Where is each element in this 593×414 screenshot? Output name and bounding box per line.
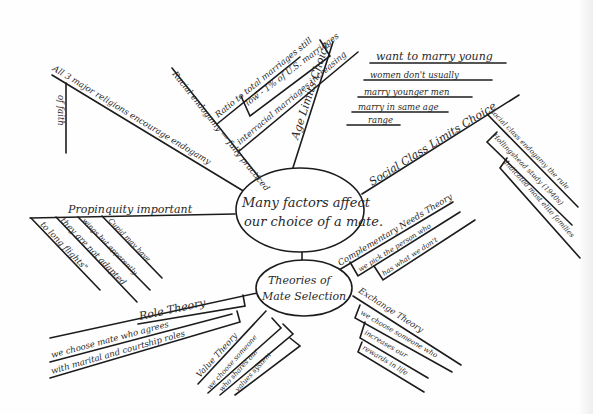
theories-bubble	[256, 260, 352, 316]
theories-line1: Theories of	[268, 274, 333, 287]
social-class-line-1: social class endogamy the rule	[489, 108, 571, 191]
age-line-1: want to marry young	[376, 50, 493, 63]
age-line-2: women don't usually	[370, 70, 459, 80]
mind-map-canvas: Many factors affect our choice of a mate…	[0, 0, 593, 414]
religion-sub-label: of faith	[56, 95, 66, 126]
propinquity-branch-label: Propinquity important	[67, 203, 193, 216]
theories-line2: Mate Selection	[261, 290, 346, 303]
mind-map-diagram: Many factors affect our choice of a mate…	[0, 0, 593, 414]
main-topic-line2: our choice of a mate.	[244, 214, 383, 229]
role-branch-label: Role Theory	[137, 296, 207, 323]
propinquity-line-1: Cupid may have	[107, 217, 152, 264]
social-class-line-3: Indicated most elite families	[502, 158, 576, 239]
age-line-4: marry in same age	[358, 102, 438, 112]
main-topic-line1: Many factors affect	[241, 195, 371, 210]
age-line-5: range	[368, 115, 393, 125]
religion-branch-label: All 3 major religions encourage endogamy	[50, 63, 213, 167]
age-line-3: marry younger men	[364, 87, 449, 97]
